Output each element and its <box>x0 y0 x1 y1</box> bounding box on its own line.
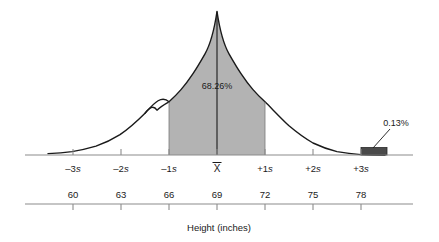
mean-symbol-label: X <box>214 163 221 174</box>
normal-distribution-figure: –3s –2s –1s +1s +2s +3s X 60 63 66 69 72… <box>0 0 439 242</box>
height-axis-ticks <box>73 204 361 210</box>
tail-area-percent-label: 0.13% <box>383 118 409 128</box>
sd-tick-label-minus1: –1s <box>161 163 177 174</box>
height-tick-label-75: 75 <box>308 189 319 200</box>
height-tick-label-66: 66 <box>164 189 175 200</box>
height-tick-label-69: 69 <box>212 189 223 200</box>
sd-tick-label-plus1: +1s <box>257 163 273 174</box>
tail-annotation-leader-line <box>373 129 390 148</box>
height-tick-label-60: 60 <box>68 189 79 200</box>
x-axis-caption: Height (inches) <box>187 222 251 233</box>
sd-tick-label-plus2: +2s <box>305 163 321 174</box>
sd-tick-label-minus3: –3s <box>65 163 81 174</box>
height-tick-label-72: 72 <box>260 189 271 200</box>
upper-tail-shaded-region <box>361 148 387 156</box>
sd-axis-ticks <box>73 149 361 155</box>
center-area-percent-label: 68.26% <box>202 81 233 91</box>
height-tick-label-63: 63 <box>116 189 127 200</box>
height-tick-label-78: 78 <box>356 189 367 200</box>
distribution-chart: –3s –2s –1s +1s +2s +3s X 60 63 66 69 72… <box>0 0 439 242</box>
sd-tick-label-minus2: –2s <box>113 163 129 174</box>
normal-curve-left-shoulder <box>145 102 169 113</box>
sd-tick-label-plus3: +3s <box>353 163 369 174</box>
